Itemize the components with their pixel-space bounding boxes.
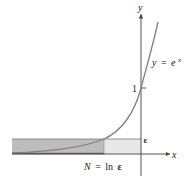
- n-label: N = ln ε: [83, 161, 123, 172]
- function-label: y = e x: [151, 56, 182, 68]
- x-axis-label: x: [171, 149, 177, 160]
- exponential-diagram: y x y = e x 1 ε N = ln ε: [0, 0, 188, 180]
- tick-one-label: 1: [132, 83, 137, 94]
- epsilon-label: ε: [144, 135, 148, 145]
- light-shaded-region: [104, 139, 141, 154]
- y-axis-label: y: [137, 2, 143, 13]
